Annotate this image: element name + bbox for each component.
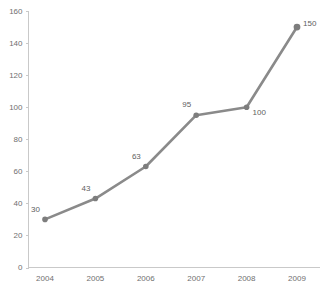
y-tick-label: 160 <box>9 7 23 16</box>
series-marker-point <box>244 104 250 110</box>
x-tick-label: 2008 <box>238 274 256 283</box>
data-value-label: 63 <box>132 152 141 161</box>
x-tick-label: 2004 <box>36 274 54 283</box>
y-tick-label: 60 <box>14 167 23 176</box>
y-tick-label: 100 <box>9 103 23 112</box>
series-marker-point <box>93 196 99 202</box>
line-chart: 020406080100120140160 200420052006200720… <box>0 0 324 296</box>
data-value-label: 150 <box>303 19 317 28</box>
data-value-label: 30 <box>31 205 40 214</box>
data-value-label: 43 <box>81 184 90 193</box>
y-tick-label: 0 <box>18 263 23 272</box>
y-tick-label: 120 <box>9 71 23 80</box>
data-label-group: 30436395100150 <box>31 19 317 213</box>
y-tick-label: 20 <box>14 231 23 240</box>
x-tick-label: 2009 <box>288 274 306 283</box>
y-tick-label: 140 <box>9 39 23 48</box>
data-value-label: 95 <box>182 100 191 109</box>
series-marker-point <box>193 112 199 118</box>
y-tick-label: 40 <box>14 199 23 208</box>
series-marker-point <box>143 164 149 170</box>
x-tick-label: 2006 <box>137 274 155 283</box>
x-tick-label: 2005 <box>87 274 105 283</box>
series-marker-point <box>42 217 48 223</box>
x-tick-label: 2007 <box>187 274 205 283</box>
y-tick-label: 80 <box>14 135 23 144</box>
data-value-label: 100 <box>253 108 267 117</box>
x-tick-group: 200420052006200720082009 <box>36 274 306 283</box>
y-tick-group: 020406080100120140160 <box>9 7 28 273</box>
chart-canvas: 020406080100120140160 200420052006200720… <box>0 0 324 296</box>
series-marker-point <box>294 24 301 31</box>
